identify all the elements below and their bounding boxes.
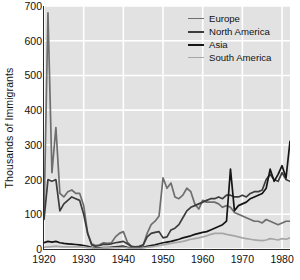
x-tick-label: 1930 [72, 253, 95, 265]
chart-legend: EuropeNorth AmericaAsiaSouth America [188, 12, 294, 64]
legend-item-asia[interactable]: Asia [188, 38, 294, 51]
legend-swatch-icon [188, 31, 204, 33]
y-tick-label: 400 [2, 104, 42, 116]
x-axis-line [43, 249, 290, 250]
y-axis-tick-labels: 7006005004003002001000 [0, 0, 42, 280]
x-tick-label: 1940 [112, 253, 135, 265]
x-axis-tick-labels: 1920193019401950196019701980 [0, 253, 300, 271]
legend-item-label: North America [209, 25, 270, 38]
y-tick-label: 600 [2, 35, 42, 47]
y-tick-label: 300 [2, 139, 42, 151]
y-tick-label: 100 [2, 208, 42, 220]
y-tick-label: 500 [2, 69, 42, 81]
x-tick-label: 1960 [191, 253, 214, 265]
x-tick-label: 1950 [151, 253, 174, 265]
legend-swatch-icon [188, 18, 204, 19]
x-tick-label: 1980 [270, 253, 293, 265]
legend-item-label: Asia [209, 38, 228, 51]
legend-item-label: South America [209, 51, 271, 64]
x-tick-label: 1970 [231, 253, 254, 265]
legend-swatch-icon [188, 57, 204, 58]
legend-item-south-america[interactable]: South America [188, 51, 294, 64]
x-tick-label: 1920 [32, 253, 55, 265]
y-tick-label: 700 [2, 0, 42, 12]
y-axis-line [43, 6, 44, 249]
series-line-north-america [44, 173, 290, 247]
legend-item-europe[interactable]: Europe [188, 12, 294, 25]
legend-item-label: Europe [209, 12, 240, 25]
legend-item-north-america[interactable]: North America [188, 25, 294, 38]
y-tick-label: 200 [2, 174, 42, 186]
chart-figure: Thousands of Immigrants 7006005004003002… [0, 0, 300, 280]
legend-swatch-icon [188, 44, 204, 46]
